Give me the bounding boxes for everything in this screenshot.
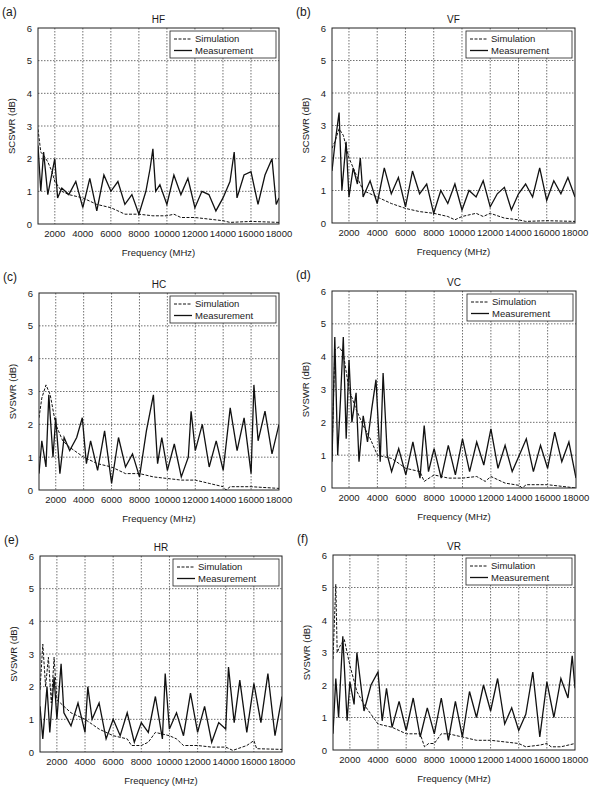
svg-text:16000: 16000 bbox=[238, 228, 264, 239]
measurement-line bbox=[333, 636, 575, 740]
svg-text:8000: 8000 bbox=[424, 492, 445, 503]
chart-title: VF bbox=[447, 14, 460, 25]
svg-text:1: 1 bbox=[321, 185, 326, 196]
svg-text:4000: 4000 bbox=[73, 494, 94, 505]
svg-text:5: 5 bbox=[322, 582, 327, 593]
panel-label: (d) bbox=[296, 268, 311, 282]
svg-text:12000: 12000 bbox=[182, 228, 208, 239]
legend: SimulationMeasurement bbox=[466, 558, 572, 585]
svg-text:3: 3 bbox=[322, 647, 327, 658]
svg-text:5: 5 bbox=[321, 55, 326, 66]
svg-text:12000: 12000 bbox=[477, 754, 503, 765]
chart-panel-hf: (a)HF20004000600080001000012000140001600… bbox=[2, 5, 292, 258]
measurement-legend-label: Measurement bbox=[195, 45, 253, 56]
svg-text:12000: 12000 bbox=[477, 227, 503, 238]
svg-text:4: 4 bbox=[27, 88, 32, 99]
svg-text:16000: 16000 bbox=[534, 492, 560, 503]
svg-text:18000: 18000 bbox=[269, 756, 295, 767]
simulation-legend-label: Simulation bbox=[198, 561, 242, 572]
svg-text:1: 1 bbox=[28, 452, 33, 463]
svg-text:2000: 2000 bbox=[339, 754, 360, 765]
figure-canvas: (a)HF20004000600080001000012000140001600… bbox=[0, 0, 598, 795]
measurement-legend-label: Measurement bbox=[491, 45, 549, 56]
svg-text:2: 2 bbox=[321, 417, 326, 428]
panel-label: (e) bbox=[4, 533, 19, 547]
y-axis-label: SVSWR (dB) bbox=[301, 625, 312, 680]
svg-text:10000: 10000 bbox=[449, 754, 475, 765]
svg-text:12000: 12000 bbox=[184, 756, 210, 767]
simulation-legend-label: Simulation bbox=[491, 33, 535, 44]
svg-text:2: 2 bbox=[321, 153, 326, 164]
svg-text:4000: 4000 bbox=[367, 492, 388, 503]
svg-text:6000: 6000 bbox=[396, 754, 417, 765]
measurement-line bbox=[332, 113, 575, 214]
svg-text:2: 2 bbox=[27, 153, 32, 164]
svg-text:4: 4 bbox=[28, 353, 33, 364]
svg-text:6000: 6000 bbox=[395, 227, 416, 238]
y-axis-label: SCSWR (dB) bbox=[300, 98, 311, 154]
panel-label: (c) bbox=[3, 270, 17, 284]
x-axis-label: Frequency (MHz) bbox=[417, 511, 490, 522]
y-axis-label: SCSWR (dB) bbox=[6, 98, 17, 154]
svg-text:10000: 10000 bbox=[154, 494, 180, 505]
svg-text:10000: 10000 bbox=[449, 492, 475, 503]
svg-text:16000: 16000 bbox=[534, 754, 560, 765]
svg-text:12000: 12000 bbox=[182, 494, 208, 505]
legend: SimulationMeasurement bbox=[173, 559, 279, 586]
svg-text:2000: 2000 bbox=[338, 227, 359, 238]
svg-text:18000: 18000 bbox=[563, 492, 589, 503]
legend: SimulationMeasurement bbox=[170, 31, 276, 58]
svg-text:14000: 14000 bbox=[210, 494, 236, 505]
simulation-line bbox=[40, 644, 282, 750]
svg-text:6: 6 bbox=[29, 551, 34, 562]
simulation-line bbox=[38, 129, 279, 222]
chart-panel-vc: (d)VC20004000600080001000012000140001600… bbox=[296, 268, 589, 522]
svg-text:16000: 16000 bbox=[238, 494, 264, 505]
svg-text:2000: 2000 bbox=[46, 756, 67, 767]
svg-text:0: 0 bbox=[321, 218, 326, 229]
measurement-legend-label: Measurement bbox=[195, 310, 253, 321]
chart-panel-hr: (e)HR20004000600080001000012000140001600… bbox=[4, 533, 295, 786]
y-axis-label: SVSWR (dB) bbox=[8, 626, 19, 681]
svg-text:1: 1 bbox=[322, 712, 327, 723]
chart-panel-vr: (f)VR20004000600080001000012000140001600… bbox=[297, 532, 588, 784]
svg-text:3: 3 bbox=[27, 121, 32, 132]
legend: SimulationMeasurement bbox=[170, 296, 276, 323]
svg-text:6000: 6000 bbox=[100, 228, 121, 239]
svg-text:8000: 8000 bbox=[131, 756, 152, 767]
svg-text:5: 5 bbox=[29, 583, 34, 594]
y-tick-labels: 0123456 bbox=[28, 288, 33, 496]
svg-text:3: 3 bbox=[28, 386, 33, 397]
measurement-line bbox=[39, 385, 279, 484]
svg-text:4000: 4000 bbox=[367, 754, 388, 765]
svg-text:3: 3 bbox=[321, 120, 326, 131]
svg-text:16000: 16000 bbox=[241, 756, 267, 767]
svg-text:5: 5 bbox=[27, 55, 32, 66]
x-tick-labels: 2000400060008000100001200014000160001800… bbox=[339, 754, 588, 765]
svg-text:14000: 14000 bbox=[506, 492, 532, 503]
svg-text:6: 6 bbox=[321, 286, 326, 297]
svg-text:2000: 2000 bbox=[44, 228, 65, 239]
svg-text:6: 6 bbox=[322, 550, 327, 561]
svg-text:6000: 6000 bbox=[103, 756, 124, 767]
y-tick-labels: 0123456 bbox=[27, 23, 32, 230]
svg-text:4: 4 bbox=[322, 615, 327, 626]
svg-text:1: 1 bbox=[27, 186, 32, 197]
simulation-legend-label: Simulation bbox=[491, 560, 535, 571]
svg-text:4000: 4000 bbox=[72, 228, 93, 239]
x-axis-label: Frequency (MHz) bbox=[417, 773, 490, 784]
svg-text:0: 0 bbox=[28, 485, 33, 496]
chart-title: HC bbox=[152, 279, 166, 290]
measurement-line bbox=[40, 664, 282, 742]
svg-text:4000: 4000 bbox=[367, 227, 388, 238]
x-tick-labels: 2000400060008000100001200014000160001800… bbox=[46, 756, 295, 767]
x-axis-label: Frequency (MHz) bbox=[122, 247, 195, 258]
svg-text:8000: 8000 bbox=[129, 494, 150, 505]
x-axis-label: Frequency (MHz) bbox=[124, 775, 197, 786]
panel-label: (f) bbox=[297, 532, 308, 546]
svg-text:0: 0 bbox=[322, 745, 327, 756]
svg-text:1: 1 bbox=[29, 714, 34, 725]
measurement-legend-label: Measurement bbox=[492, 308, 550, 319]
svg-text:14000: 14000 bbox=[213, 756, 239, 767]
panel-label: (b) bbox=[296, 5, 311, 19]
